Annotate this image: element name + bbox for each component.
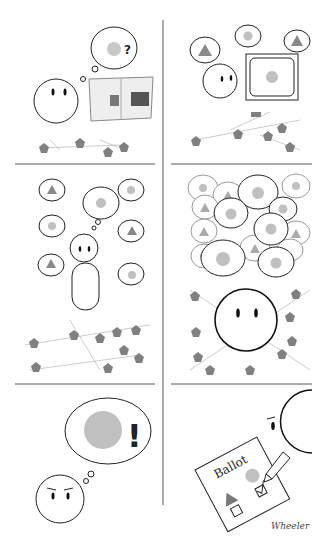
tv bbox=[246, 54, 298, 100]
panel-2 bbox=[190, 25, 310, 152]
panel-4 bbox=[188, 174, 310, 375]
comic-illustration: ? bbox=[0, 0, 327, 553]
exclamation-mark: ! bbox=[127, 417, 142, 455]
panel-6: Ballot Wheeler bbox=[195, 390, 312, 532]
panel-1: ? bbox=[34, 27, 153, 157]
neurons bbox=[191, 112, 300, 152]
newspaper bbox=[89, 77, 153, 121]
panel-5: ! bbox=[36, 398, 151, 523]
neurons bbox=[25, 320, 150, 373]
artist-signature: Wheeler bbox=[271, 521, 310, 531]
neurons bbox=[39, 138, 129, 157]
ballot: Ballot bbox=[195, 437, 290, 532]
question-mark: ? bbox=[124, 43, 131, 57]
panel-3 bbox=[25, 179, 150, 373]
